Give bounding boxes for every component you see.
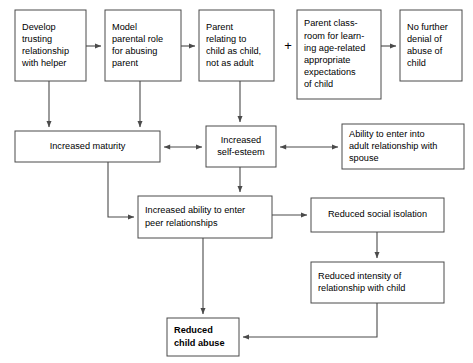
node-label-line: adult relationship with <box>349 141 437 151</box>
node-label-line: not as adult <box>206 58 254 68</box>
node-label-line: Increased <box>221 135 261 145</box>
node-label-line: spouse <box>349 153 379 163</box>
node-label-line: for abusing <box>112 46 157 56</box>
node-label-line: child abuse <box>174 338 225 348</box>
flow-edge <box>108 162 134 217</box>
node-label-line: Reduced <box>174 325 213 335</box>
node-label-line: child as child, <box>206 46 261 56</box>
node-label-line: Reduced intensity of <box>318 271 402 281</box>
flow-node: No furtherdenial ofabuse ofchild <box>400 10 462 81</box>
node-label-line: Increased ability to enter <box>145 205 245 215</box>
flow-node: Developtrustingrelationshipwith helper <box>15 10 86 81</box>
plus-operator-icon: + <box>284 38 292 53</box>
operators-layer: + <box>284 38 292 53</box>
node-label-line: Parent class- <box>304 18 358 28</box>
node-label-line: abuse of <box>407 46 443 56</box>
node-label-line: expectations <box>304 67 356 77</box>
flowchart-svg: Developtrustingrelationshipwith helperMo… <box>0 0 473 363</box>
node-label-line: relating to <box>206 34 246 44</box>
node-label-line: peer relationships <box>145 218 218 228</box>
node-label-line: Increased maturity <box>50 141 126 151</box>
flow-node: Ability to enter intoadult relationship … <box>342 124 464 169</box>
node-label-line: denial of <box>407 34 442 44</box>
node-label-line: Model <box>112 22 137 32</box>
flow-node: Parentrelating tochild as child,not as a… <box>199 10 274 81</box>
node-label-line: parental role <box>112 34 163 44</box>
flow-edge <box>243 303 377 337</box>
flow-node: Increasedself-esteem <box>206 126 276 167</box>
node-label-line: Reduced social isolation <box>328 209 427 219</box>
node-label-line: relationship <box>22 46 69 56</box>
flow-node: Increased ability to enterpeer relations… <box>138 196 272 238</box>
flow-node: Parent class-room for learn-ing age-rela… <box>297 10 381 99</box>
flow-node: Increased maturity <box>15 131 160 162</box>
flow-node: Reducedchild abuse <box>167 318 239 356</box>
node-label-line: self-esteem <box>217 147 265 157</box>
flow-node: Reduced intensity ofrelationship with ch… <box>311 262 444 303</box>
node-label-line: Develop <box>22 22 56 32</box>
node-label-line: child <box>407 58 426 68</box>
flow-node: Reduced social isolation <box>311 198 444 232</box>
node-label-line: relationship with child <box>318 283 405 293</box>
flow-node: Modelparental rolefor abusingparent <box>105 10 181 81</box>
node-label-line: No further <box>407 22 448 32</box>
flowchart-canvas: Developtrustingrelationshipwith helperMo… <box>0 0 473 363</box>
node-label-line: parent <box>112 58 138 68</box>
node-label-line: appropriate <box>304 55 350 65</box>
node-label-line: room for learn- <box>304 31 364 41</box>
node-label-line: with helper <box>21 58 66 68</box>
node-label-line: of child <box>304 79 333 89</box>
node-label-line: Ability to enter into <box>349 129 425 139</box>
node-label-line: Parent <box>206 22 234 32</box>
node-label-line: ing age-related <box>304 43 365 53</box>
node-label-line: trusting <box>22 34 52 44</box>
